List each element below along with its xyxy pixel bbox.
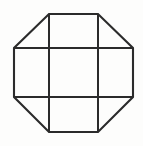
figure-container: Octagon with internal tic-tac-toe grid (0, 0, 143, 146)
octagon-outline (14, 14, 133, 132)
octagon-grid-figure (0, 0, 143, 146)
